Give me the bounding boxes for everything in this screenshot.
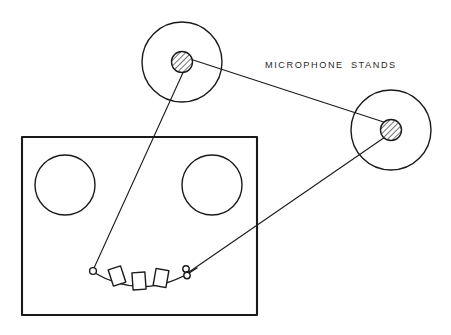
arc-rect-3 (153, 269, 169, 288)
platform-circle-left (35, 155, 95, 215)
arc-rect-1 (108, 266, 126, 286)
microphone-stand-top[interactable] (142, 22, 222, 102)
leader-lines-group (94, 58, 396, 272)
diagram-canvas: MICROPHONE STANDS (0, 0, 451, 335)
arc-rect-2 (132, 272, 146, 290)
microphone-stand-top-pole-hatching (170, 50, 195, 75)
microphone-stand-right[interactable] (351, 90, 431, 170)
leader-top-stand-to-arc-left (94, 66, 186, 268)
curved-rail-group (90, 266, 197, 290)
arc-marker-right-upper (183, 266, 189, 272)
arc-marker-right-lower (184, 272, 190, 278)
platform-circle-right (182, 155, 242, 215)
microphone-stands-label: MICROPHONE STANDS (265, 60, 397, 70)
arc-marker-left (90, 268, 97, 275)
diagram-svg: MICROPHONE STANDS (0, 0, 451, 335)
